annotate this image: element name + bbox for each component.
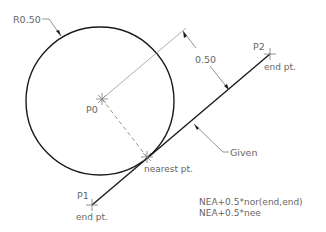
p2-label: P2 bbox=[253, 41, 265, 52]
nearest-label: nearest pt. bbox=[144, 164, 193, 174]
cad-diagram: R0.50 P0 0.50 nearest pt. P2 end pt. P1 … bbox=[0, 0, 326, 232]
center-label: P0 bbox=[86, 104, 98, 115]
dimension-label: 0.50 bbox=[195, 54, 216, 65]
p1-endpoint-label: end pt. bbox=[76, 212, 108, 222]
given-leader bbox=[194, 124, 229, 152]
given-label: Given bbox=[230, 147, 258, 158]
given-line bbox=[92, 54, 270, 205]
radius-label: R0.50 bbox=[13, 14, 41, 25]
radius-leader bbox=[42, 19, 61, 36]
p2-endpoint-label: end pt. bbox=[264, 62, 296, 72]
p1-label: P1 bbox=[77, 190, 89, 201]
dashed-normal bbox=[102, 99, 147, 157]
formula-1: NEA+0.5*nor(end,end) bbox=[199, 197, 303, 207]
formula-2: NEA+0.5*nee bbox=[199, 208, 261, 218]
